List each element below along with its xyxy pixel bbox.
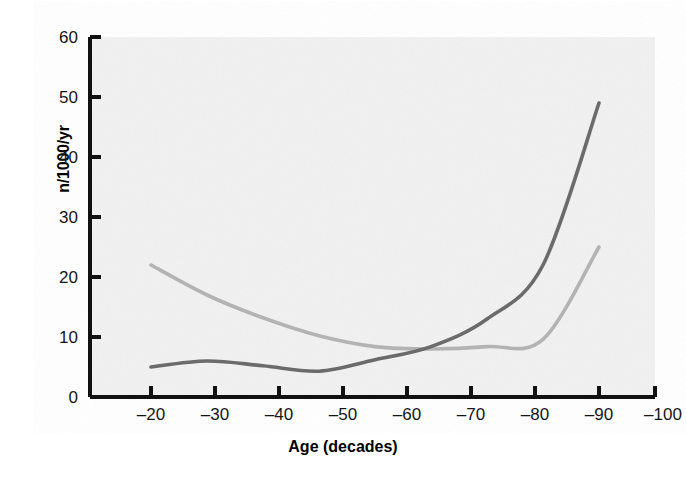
- plot-area: [0, 0, 686, 477]
- plot-background-grain: [90, 37, 655, 397]
- chart-figure: n/1000/yr Age (decades) 0 10 20 30 40 50…: [0, 0, 686, 477]
